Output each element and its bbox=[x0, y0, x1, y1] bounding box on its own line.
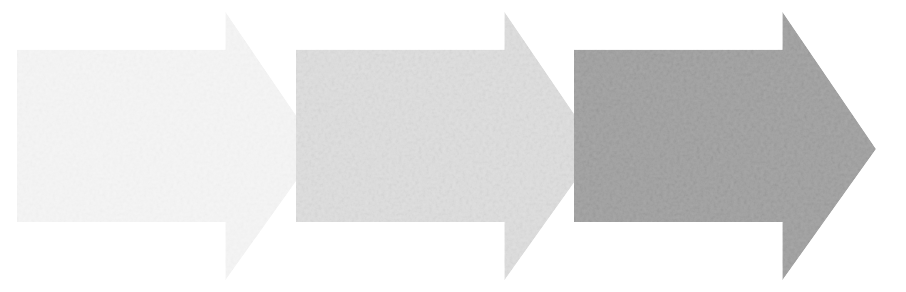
arrow-right-icon bbox=[17, 0, 319, 292]
arrow-2-shape bbox=[296, 12, 598, 281]
arrow-right-icon bbox=[296, 0, 598, 292]
arrow-right-icon bbox=[574, 0, 876, 292]
arrow-3-container bbox=[574, 0, 876, 292]
arrow-1-container bbox=[17, 0, 319, 292]
arrow-2-container bbox=[296, 0, 598, 292]
arrow-sequence-canvas bbox=[0, 0, 906, 292]
arrow-3-shape bbox=[574, 12, 876, 281]
arrow-1-shape bbox=[17, 12, 319, 281]
